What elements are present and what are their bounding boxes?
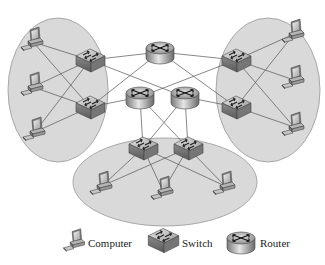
computer-icon	[64, 229, 85, 252]
legend: Computer Switch Router	[64, 228, 291, 254]
legend-label-switch: Switch	[182, 237, 213, 249]
legend-label-computer: Computer	[88, 237, 132, 249]
cluster-left	[8, 18, 108, 162]
legend-label-router: Router	[260, 237, 290, 249]
legend-item-switch: Switch	[148, 228, 213, 252]
router-icon	[126, 87, 154, 109]
router-icon	[146, 42, 174, 64]
router-icon	[227, 232, 255, 254]
router-icon	[171, 87, 199, 109]
cluster-right	[216, 18, 320, 162]
switch-icon	[148, 228, 178, 252]
legend-item-router: Router	[227, 232, 290, 254]
legend-item-computer: Computer	[64, 229, 133, 252]
network-diagram: Computer Switch Router	[0, 0, 325, 265]
